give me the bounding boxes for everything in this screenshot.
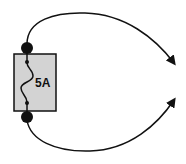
top-terminal bbox=[21, 42, 33, 54]
fuse-inner-dot-top bbox=[25, 60, 29, 64]
fuse-rating-label: 5A bbox=[35, 76, 51, 90]
fuse-inner-dot-bottom bbox=[25, 101, 29, 105]
fuse-diagram: 5A bbox=[0, 0, 186, 164]
bottom-terminal bbox=[21, 111, 33, 123]
